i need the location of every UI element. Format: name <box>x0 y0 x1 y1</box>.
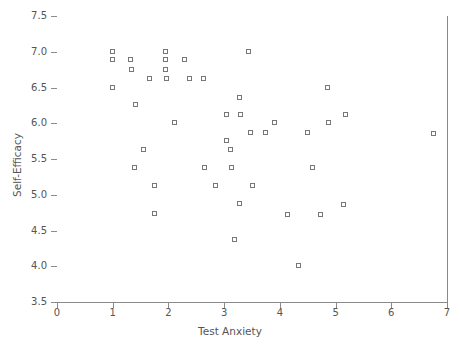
data-point <box>296 263 301 268</box>
data-point <box>202 165 207 170</box>
data-point <box>232 237 237 242</box>
data-point <box>318 212 323 217</box>
x-tick-label: 5 <box>326 308 346 318</box>
data-point <box>305 130 310 135</box>
data-point <box>246 49 251 54</box>
data-point <box>132 165 137 170</box>
data-point <box>326 120 331 125</box>
data-point <box>141 147 146 152</box>
data-point <box>272 120 277 125</box>
x-tick-label: 7 <box>437 308 457 318</box>
y-tick-label: 3.5 <box>17 297 47 307</box>
scatter-plot-figure: 3.54.04.55.05.56.06.57.07.5 01234567 Tes… <box>0 0 460 348</box>
data-point <box>187 76 192 81</box>
data-point <box>224 112 229 117</box>
data-point <box>182 57 187 62</box>
data-point <box>343 112 348 117</box>
data-point <box>163 49 168 54</box>
x-axis-label: Test Anxiety <box>0 325 460 337</box>
data-point <box>263 130 268 135</box>
y-axis-label: Self-Efficacy <box>11 120 23 210</box>
data-point <box>238 112 243 117</box>
y-tick-label: 4.5 <box>17 226 47 236</box>
data-point <box>163 67 168 72</box>
data-point <box>110 57 115 62</box>
data-point <box>129 67 134 72</box>
data-point <box>250 183 255 188</box>
data-point <box>237 201 242 206</box>
data-point <box>310 165 315 170</box>
data-point <box>164 76 169 81</box>
y-tick-label: 4.0 <box>17 261 47 271</box>
data-point <box>229 165 234 170</box>
data-point <box>431 131 436 136</box>
x-tick-label: 1 <box>103 308 123 318</box>
data-point <box>152 211 157 216</box>
data-point <box>152 183 157 188</box>
x-tick-label: 4 <box>270 308 290 318</box>
data-point <box>128 57 133 62</box>
y-tick-label: 7.0 <box>17 47 47 57</box>
x-tick-label: 3 <box>214 308 234 318</box>
data-point <box>285 212 290 217</box>
x-tick-label: 0 <box>47 308 67 318</box>
y-tick-label: 6.5 <box>17 83 47 93</box>
plot-frame-right <box>447 16 448 303</box>
data-point <box>248 130 253 135</box>
data-point <box>213 183 218 188</box>
data-point <box>325 85 330 90</box>
x-tick-label: 2 <box>158 308 178 318</box>
data-point <box>163 57 168 62</box>
data-point <box>133 102 138 107</box>
data-point <box>341 202 346 207</box>
data-point <box>110 85 115 90</box>
plot-area <box>57 16 447 302</box>
data-point <box>172 120 177 125</box>
x-axis-line <box>57 302 448 303</box>
data-point <box>237 95 242 100</box>
data-point <box>224 138 229 143</box>
data-point <box>201 76 206 81</box>
data-point <box>228 147 233 152</box>
y-tick-label: 7.5 <box>17 11 47 21</box>
x-tick-label: 6 <box>381 308 401 318</box>
data-point <box>147 76 152 81</box>
data-point <box>110 49 115 54</box>
